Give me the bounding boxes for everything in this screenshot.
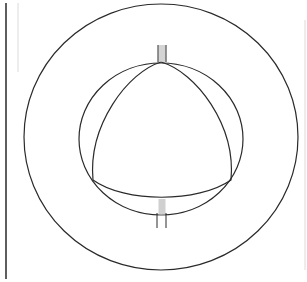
diagram-canvas: [0, 0, 307, 282]
outer-circle: [24, 4, 298, 270]
geometry-diagram: [0, 0, 307, 282]
inner-circle: [79, 63, 243, 215]
top-support: [158, 45, 166, 62]
bottom-support: [157, 199, 166, 228]
curved-triangle: [93, 62, 232, 197]
